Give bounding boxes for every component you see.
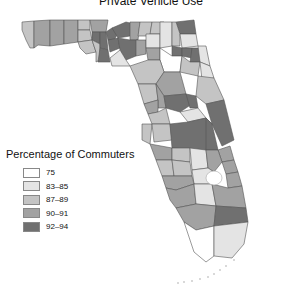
county-walton: [64, 20, 78, 44]
legend-label: 90–91: [46, 209, 68, 218]
legend-swatch: [23, 195, 40, 205]
county-highlands: [190, 148, 208, 170]
county-hillsborough: [152, 124, 172, 142]
county-hardee: [172, 148, 190, 162]
county-franklin: [98, 48, 110, 62]
county-holmes: [78, 20, 90, 30]
legend-swatch: [23, 168, 40, 178]
county-escambia: [22, 21, 34, 48]
legend-label: 87–89: [46, 195, 68, 204]
legend-label: 83–85: [46, 182, 68, 191]
county-jackson: [90, 20, 108, 32]
county-sarasota: [156, 160, 174, 176]
county-martin: [226, 172, 242, 188]
county-desoto: [172, 160, 192, 176]
county-volusia: [196, 76, 224, 104]
legend-item: 92–94: [6, 220, 134, 234]
legend-item: 75: [6, 166, 134, 180]
county-dade: [214, 222, 248, 258]
florida-keys: [177, 259, 235, 284]
legend-swatch: [23, 222, 40, 232]
county-palm-beach: [212, 184, 246, 208]
legend-item: 83–85: [6, 180, 134, 194]
county-santa-rosa: [34, 20, 50, 48]
county-manatee: [150, 144, 172, 160]
county-st-lucie: [222, 160, 238, 174]
legend: Percentage of Commuters 75 83–85 87–89 9…: [6, 148, 134, 234]
legend-swatch: [23, 181, 40, 191]
county-duval: [180, 34, 198, 48]
legend-label: 92–94: [46, 222, 68, 231]
county-gilchrist: [146, 48, 160, 60]
county-union: [172, 46, 182, 56]
legend-swatch: [23, 208, 40, 218]
legend-title: Percentage of Commuters: [6, 148, 134, 160]
county-suwannee: [146, 34, 160, 48]
legend-item: 87–89: [6, 193, 134, 207]
county-okaloosa: [50, 20, 64, 46]
county-collier: [176, 204, 216, 230]
county-columbia: [160, 22, 172, 48]
legend-label: 75: [46, 168, 55, 177]
legend-item: 90–91: [6, 207, 134, 221]
county-pinellas: [142, 124, 152, 144]
county-lafayette: [136, 40, 146, 56]
lake-okeechobee: [206, 171, 222, 185]
